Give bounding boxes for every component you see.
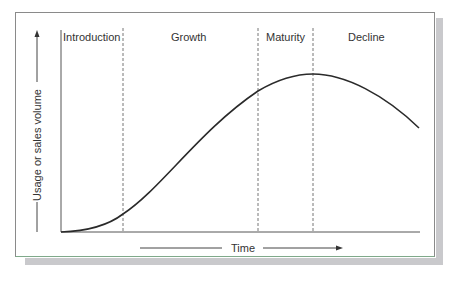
life-cycle-curve xyxy=(61,74,419,232)
phase-label-maturity: Maturity xyxy=(266,31,305,43)
x-arrowhead-icon xyxy=(336,246,343,251)
phase-label-growth: Growth xyxy=(171,31,206,43)
y-arrowhead-icon xyxy=(35,30,40,37)
y-axis-label: Usage or sales volume xyxy=(31,89,43,201)
x-axis-label: Time xyxy=(231,242,255,254)
phase-label-decline: Decline xyxy=(348,31,385,43)
phase-label-introduction: Introduction xyxy=(63,31,120,43)
life-cycle-chart xyxy=(0,0,455,292)
